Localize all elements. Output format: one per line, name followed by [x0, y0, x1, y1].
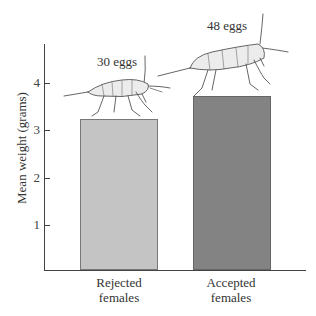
y-tick-1 — [45, 225, 50, 226]
y-tick-label-3: 3 — [26, 123, 40, 137]
x-axis — [44, 270, 306, 271]
y-tick-2 — [45, 178, 50, 179]
category-label-line: females — [186, 290, 276, 305]
category-label-line: females — [74, 290, 164, 305]
cricket-illustration-large — [150, 12, 295, 92]
bar-accepted-females — [193, 96, 271, 270]
y-axis — [44, 44, 45, 271]
y-tick-label-1: 1 — [26, 218, 40, 232]
y-tick-label-2: 2 — [26, 171, 40, 185]
bar-rejected-females — [80, 119, 158, 270]
category-label-rejected: Rejected females — [74, 275, 164, 305]
category-label-accepted: Accepted females — [186, 275, 276, 305]
y-tick-4 — [45, 83, 50, 84]
category-label-line: Accepted — [186, 275, 276, 290]
y-tick-label-4: 4 — [26, 76, 40, 90]
category-label-line: Rejected — [74, 275, 164, 290]
y-tick-3 — [45, 130, 50, 131]
y-axis-label: Mean weight (grams) — [14, 68, 30, 228]
